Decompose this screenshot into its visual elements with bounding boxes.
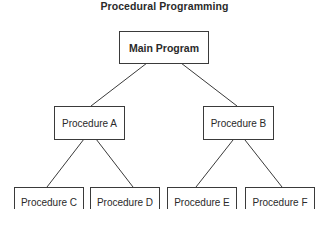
node-procedure-e: Procedure E	[167, 187, 237, 209]
node-procedure-a: Procedure A	[54, 106, 125, 140]
edge-b-f	[245, 140, 282, 187]
node-main-program: Main Program	[119, 31, 209, 64]
edge-b-e	[196, 140, 233, 187]
node-procedure-d: Procedure D	[90, 187, 160, 209]
edge-a-c	[47, 139, 84, 187]
node-procedure-f: Procedure F	[245, 187, 315, 209]
edge-main-b	[181, 63, 237, 106]
node-procedure-b: Procedure B	[203, 106, 274, 140]
edge-main-a	[91, 63, 147, 106]
node-procedure-c: Procedure C	[14, 187, 84, 209]
edge-a-d	[96, 139, 133, 187]
